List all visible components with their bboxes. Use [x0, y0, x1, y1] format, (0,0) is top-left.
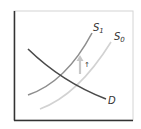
supply-curve-s0: [40, 42, 111, 109]
label-s0: S0: [114, 31, 125, 44]
label-d: D: [108, 95, 116, 106]
label-s1: S1: [93, 22, 104, 35]
supply-demand-diagram: ↑ S1 S0 D: [0, 0, 141, 129]
demand-curve-d: [28, 49, 106, 99]
shift-marker: ↑: [84, 61, 90, 69]
shift-up-arrow-icon: [77, 55, 84, 74]
supply-curve-s1: [28, 33, 92, 95]
